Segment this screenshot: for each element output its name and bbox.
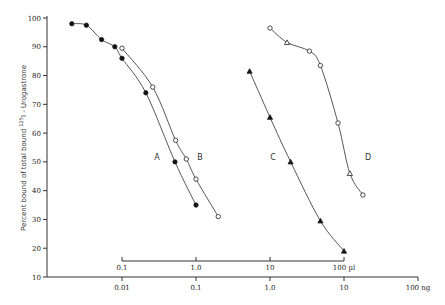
data-point-A — [173, 160, 177, 164]
y-tick-label: 90 — [32, 43, 41, 51]
data-point-A — [194, 203, 198, 207]
data-point-C — [318, 218, 323, 223]
x-mass-tick-label: 0.1 — [190, 284, 201, 292]
data-point-D — [284, 40, 289, 45]
data-point-D — [318, 63, 322, 67]
x-mass-tick-label: 10 — [340, 284, 349, 292]
data-point-C — [247, 69, 252, 74]
data-point-B — [194, 177, 198, 181]
curve-label-D: D — [365, 153, 371, 162]
x-mass-tick-label: 0.01 — [114, 284, 130, 292]
data-point-B — [173, 138, 177, 142]
y-tick-label: 70 — [32, 101, 41, 109]
curve-label-C: C — [270, 153, 276, 162]
y-tick-label: 30 — [32, 216, 41, 224]
curve-label-B: B — [197, 153, 203, 162]
y-tick-label: 10 — [32, 274, 41, 282]
curve-B — [122, 48, 218, 216]
x-axis-volume: 0.11.010100 µl — [116, 257, 356, 272]
data-point-B — [151, 85, 155, 89]
x-volume-tick-label: 10 — [266, 264, 275, 272]
competition-binding-chart: 102030405060708090100 Percent bound of t… — [0, 0, 445, 305]
data-point-C — [267, 115, 272, 120]
x-volume-tick-label: 1.0 — [190, 264, 201, 272]
figure-caption-cutoff — [4, 294, 441, 304]
data-point-D — [307, 49, 311, 53]
curve-C — [250, 71, 344, 251]
data-point-A — [144, 91, 148, 95]
data-point-A — [113, 45, 117, 49]
curve-label-A: A — [154, 153, 160, 162]
data-point-B — [120, 46, 124, 50]
data-point-A — [84, 23, 88, 27]
data-point-A — [70, 22, 74, 26]
y-tick-label: 40 — [32, 187, 41, 195]
series-markers — [70, 22, 365, 254]
y-tick-label: 20 — [32, 245, 41, 253]
x-mass-tick-label: 100 ng — [406, 284, 431, 292]
x-volume-tick-label: 100 µl — [333, 264, 356, 272]
data-point-A — [120, 56, 124, 60]
data-point-B — [216, 214, 220, 218]
y-axis-title: Percent bound of total bound 125I - Urog… — [18, 65, 28, 231]
y-tick-label: 100 — [28, 15, 41, 23]
x-mass-tick-label: 1.0 — [264, 284, 275, 292]
data-point-A — [99, 37, 103, 41]
curve-A — [72, 24, 196, 205]
data-point-B — [184, 157, 188, 161]
x-axis-mass: 0.010.11.010100 ng — [47, 277, 431, 292]
data-point-D — [361, 193, 365, 197]
x-volume-tick-label: 0.1 — [116, 264, 127, 272]
y-tick-label: 60 — [32, 130, 41, 138]
curve-D — [270, 28, 363, 195]
data-point-D — [336, 121, 340, 125]
data-point-D — [347, 171, 352, 176]
data-point-C — [288, 159, 293, 164]
y-tick-label: 80 — [32, 72, 41, 80]
y-tick-label: 50 — [32, 158, 41, 166]
data-point-D — [268, 26, 272, 30]
y-axis: 102030405060708090100 — [28, 15, 47, 282]
